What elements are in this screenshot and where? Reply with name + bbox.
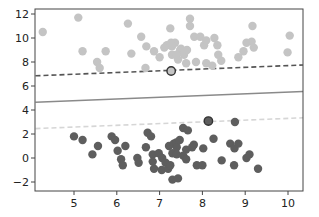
class-light-point — [74, 13, 82, 21]
class-light-point — [183, 46, 191, 54]
class-dark-point — [147, 132, 155, 140]
y-tick-label: −2 — [13, 176, 29, 189]
class-light-point — [186, 15, 194, 23]
svm-scatter-chart: 5678910 −2024681012 — [0, 0, 319, 217]
class-dark-point — [70, 132, 78, 140]
x-tick-label: 10 — [281, 197, 295, 210]
class-dark-point — [113, 147, 121, 155]
class-dark-point — [231, 118, 239, 126]
class-dark-point — [174, 174, 182, 182]
y-tick-label: 0 — [22, 152, 29, 165]
class-dark-point — [245, 150, 253, 158]
class-light-point — [213, 41, 221, 49]
class-light-point — [182, 59, 190, 67]
class-dark-point — [182, 155, 190, 163]
x-tick-label: 7 — [156, 197, 163, 210]
class-light-point — [202, 36, 210, 44]
class-dark-point — [230, 161, 238, 169]
class-light-point — [286, 31, 294, 39]
class-dark-point — [198, 161, 206, 169]
y-tick-label: 4 — [22, 104, 29, 117]
margin-lower-line — [35, 118, 303, 129]
class-light-point — [137, 33, 145, 41]
class-light-point — [239, 47, 247, 55]
x-tick-label: 8 — [199, 197, 206, 210]
class-dark-point — [119, 161, 127, 169]
class-dark-point — [166, 161, 174, 169]
data-points — [39, 13, 294, 183]
class-dark-point — [188, 143, 196, 151]
class-dark-point — [209, 135, 217, 143]
y-axis-ticks: −2024681012 — [13, 8, 35, 189]
class-dark-point — [121, 142, 129, 150]
x-tick-label: 6 — [113, 197, 120, 210]
class-light-point — [248, 22, 256, 30]
class-light-point — [127, 49, 135, 57]
class-dark-point — [142, 143, 150, 151]
class-light-point — [160, 43, 168, 51]
class-light-point — [142, 42, 150, 50]
class-light-point — [168, 42, 176, 50]
class-light-point — [101, 47, 109, 55]
y-tick-label: 6 — [22, 80, 29, 93]
class-dark-point — [111, 136, 119, 144]
class-dark-point — [176, 136, 184, 144]
class-light-point — [166, 24, 174, 32]
support-vector-marker — [167, 67, 175, 75]
class-dark-point — [150, 165, 158, 173]
class-light-point — [78, 47, 86, 55]
class-dark-point — [199, 144, 207, 152]
class-light-point — [283, 48, 291, 56]
x-tick-label: 5 — [71, 197, 78, 210]
x-tick-label: 9 — [242, 197, 249, 210]
decision-boundary-line — [35, 91, 303, 102]
class-dark-point — [173, 143, 181, 151]
class-light-point — [208, 61, 216, 69]
class-light-point — [95, 64, 103, 72]
class-dark-point — [184, 126, 192, 134]
y-tick-label: 2 — [22, 128, 29, 141]
class-light-point — [155, 53, 163, 61]
y-tick-label: 12 — [15, 8, 29, 21]
class-dark-point — [234, 139, 242, 147]
class-dark-point — [149, 157, 157, 165]
y-tick-label: 10 — [15, 32, 29, 45]
class-light-point — [210, 34, 218, 42]
class-dark-point — [78, 136, 86, 144]
plot-canvas: 5678910 −2024681012 — [0, 0, 319, 217]
class-dark-point — [217, 156, 225, 164]
class-light-point — [217, 57, 225, 65]
x-axis-ticks: 5678910 — [71, 191, 296, 210]
class-light-point — [250, 43, 258, 51]
class-dark-point — [88, 150, 96, 158]
y-tick-label: 8 — [22, 56, 29, 69]
class-light-point — [141, 64, 149, 72]
class-light-point — [124, 19, 132, 27]
class-dark-point — [134, 159, 142, 167]
class-dark-point — [254, 165, 262, 173]
support-vector-marker — [204, 117, 212, 125]
class-light-point — [39, 28, 47, 36]
class-dark-point — [94, 142, 102, 150]
class-light-point — [172, 51, 180, 59]
class-light-point — [186, 22, 194, 30]
class-light-point — [192, 58, 200, 66]
